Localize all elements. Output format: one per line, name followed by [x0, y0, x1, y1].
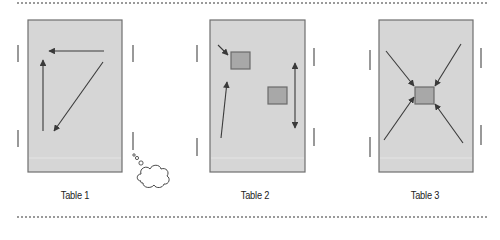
- table-3-label: Table 3: [381, 189, 469, 201]
- table-1-panel: [18, 20, 169, 188]
- table-2-label: Table 2: [211, 189, 299, 201]
- thought-bubble-icon: [133, 154, 169, 188]
- table-1-label: Table 1: [31, 189, 119, 201]
- table-2-surface: [210, 20, 305, 172]
- object-square: [268, 87, 287, 104]
- table-1-surface: [28, 20, 122, 172]
- object-square: [231, 52, 250, 69]
- table-2-panel: [197, 20, 314, 172]
- bottom-dotted-rule: [17, 216, 487, 218]
- table-3-panel: [370, 20, 481, 172]
- object-square: [415, 87, 434, 104]
